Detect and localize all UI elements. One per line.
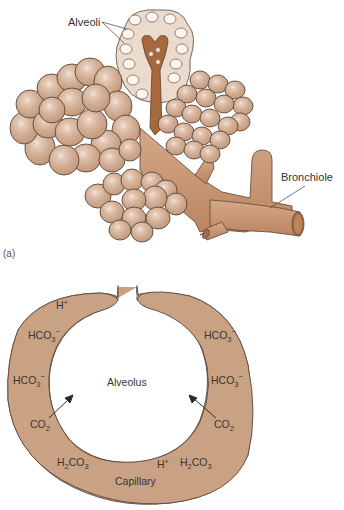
label-alveolus: Alveolus — [107, 376, 147, 388]
figure-a: Alveoli Bronchiole (a) — [3, 10, 333, 259]
label-bronchiole: Bronchiole — [281, 171, 333, 183]
label-alveoli: Alveoli — [68, 16, 100, 28]
figure-b: Alveolus Capillary H+ HCO3− HCO3− CO2 H2… — [8, 285, 253, 504]
panel-label-a: (a) — [3, 248, 15, 259]
alveoli-diagram: Alveoli Bronchiole (a) Alveolus Capillar… — [0, 0, 344, 510]
label-capillary: Capillary — [115, 475, 157, 487]
